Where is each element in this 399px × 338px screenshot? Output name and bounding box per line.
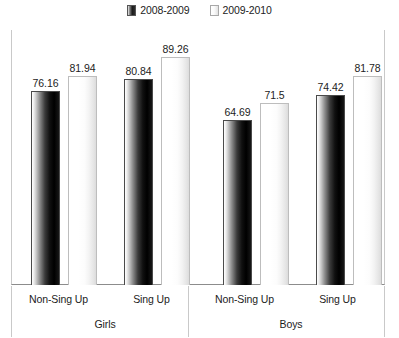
- bar-value-label: 81.78: [355, 62, 381, 74]
- legend-item-2009-2010[interactable]: 2009-2010: [210, 4, 272, 16]
- bar-girls-sing-up-2009-2010[interactable]: 89.26: [161, 57, 190, 285]
- axis-group-label-boys: Boys: [198, 311, 384, 336]
- bar-value-label: 76.16: [33, 77, 59, 89]
- group-divider: [188, 286, 189, 337]
- legend-label-2008-2009: 2008-2009: [140, 4, 189, 16]
- bar-boys-non-sing-up-2008-2009[interactable]: 64.69: [223, 120, 252, 285]
- bar-value-label: 81.94: [70, 62, 96, 74]
- bar-girls-non-sing-up-2009-2010[interactable]: 81.94: [68, 76, 97, 285]
- bar-girls-non-sing-up-2008-2009[interactable]: 76.16: [31, 91, 60, 285]
- chart-legend: 2008-2009 2009-2010: [0, 1, 399, 19]
- legend-swatch-icon-2008-2009: [127, 5, 136, 16]
- category-axis-row-group: Girls Boys: [12, 311, 384, 336]
- bar-boys-sing-up-2009-2010[interactable]: 81.78: [353, 76, 382, 285]
- axis-label-boys-sing-up: Sing Up: [291, 286, 384, 311]
- bar-value-label: 74.42: [318, 81, 344, 93]
- axis-label-girls-sing-up: Sing Up: [105, 286, 198, 311]
- axis-label-boys-non-sing-up: Non-Sing Up: [198, 286, 291, 311]
- bar-boys-sing-up-2008-2009[interactable]: 74.42: [316, 95, 345, 285]
- bars-layer: 76.16 81.94 80.84 89.26 64.69 71.5 74.42…: [11, 30, 385, 285]
- bar-value-label: 71.5: [264, 89, 284, 101]
- bar-boys-non-sing-up-2009-2010[interactable]: 71.5: [260, 103, 289, 285]
- bar-girls-sing-up-2008-2009[interactable]: 80.84: [124, 79, 153, 285]
- legend-swatch-icon-2009-2010: [210, 5, 219, 16]
- category-axis-row-subgroup: Non-Sing Up Sing Up Non-Sing Up Sing Up: [12, 286, 384, 311]
- bar-chart: 2008-2009 2009-2010 76.16 81.94 80.84 89…: [0, 0, 399, 338]
- axis-group-label-girls: Girls: [12, 311, 198, 336]
- legend-label-2009-2010: 2009-2010: [223, 4, 272, 16]
- category-axis: Non-Sing Up Sing Up Non-Sing Up Sing Up …: [11, 286, 385, 337]
- legend-item-2008-2009[interactable]: 2008-2009: [127, 4, 189, 16]
- bar-value-label: 80.84: [126, 65, 152, 77]
- bar-value-label: 64.69: [225, 106, 251, 118]
- bar-value-label: 89.26: [163, 43, 189, 55]
- axis-label-girls-non-sing-up: Non-Sing Up: [12, 286, 105, 311]
